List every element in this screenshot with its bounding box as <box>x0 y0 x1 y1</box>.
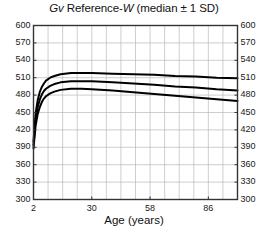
y-axis-left-tick-label: 510 <box>3 72 31 82</box>
x-axis-title: Age (years) <box>0 214 268 226</box>
y-axis-left-tick-label: 480 <box>3 89 31 99</box>
x-axis-tick-label: 86 <box>193 203 223 213</box>
y-axis-left-tick-label: 420 <box>3 124 31 134</box>
y-axis-right-tick-label: 600 <box>241 20 269 30</box>
x-axis-tick-label: 58 <box>135 203 165 213</box>
y-axis-right-tick-label: 390 <box>241 141 269 151</box>
y-axis-right-tick-label: 420 <box>241 124 269 134</box>
y-axis-right-tick-label: 360 <box>241 159 269 169</box>
y-axis-left-tick-label: 540 <box>3 54 31 64</box>
y-axis-left-tick-label: 330 <box>3 176 31 186</box>
y-axis-right-tick-label: 480 <box>241 89 269 99</box>
y-axis-left-tick-label: 600 <box>3 20 31 30</box>
y-axis-left-tick-label: 450 <box>3 107 31 117</box>
chart-figure: Gv Reference-W (median ± 1 SD) 600570540… <box>0 0 268 238</box>
x-axis-tick-label: 2 <box>19 203 49 213</box>
y-axis-left-tick-label: 570 <box>3 37 31 47</box>
y-axis-right-tick-label: 330 <box>241 176 269 186</box>
y-axis-right-tick-label: 540 <box>241 54 269 64</box>
y-axis-right-tick-label: 570 <box>241 37 269 47</box>
y-axis-left-tick-label: 360 <box>3 159 31 169</box>
y-axis-left-tick-label: 390 <box>3 141 31 151</box>
y-axis-right-tick-label: 450 <box>241 107 269 117</box>
y-axis-right-tick-label: 300 <box>241 194 269 204</box>
gridlines <box>34 26 238 200</box>
y-axis-right-tick-label: 510 <box>241 72 269 82</box>
x-axis-tick-label: 30 <box>77 203 107 213</box>
